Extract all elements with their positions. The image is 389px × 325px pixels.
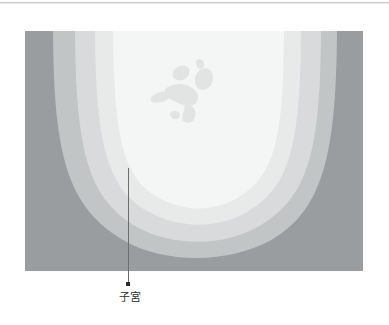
- page-top-rule-shadow: [0, 3, 389, 4]
- uterus-label: 子宮: [108, 290, 152, 304]
- leader-line: [128, 168, 129, 284]
- ultrasound-image-panel: [25, 31, 363, 271]
- leader-anchor-dot: [126, 282, 130, 286]
- figure-root: 子宮: [0, 0, 389, 325]
